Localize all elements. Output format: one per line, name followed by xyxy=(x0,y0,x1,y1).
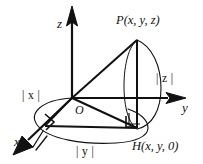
segment-xfoot-to-h xyxy=(45,126,137,128)
point-p-label: P(x, y, z) xyxy=(116,14,160,27)
abs-x-label: | x | xyxy=(22,90,40,102)
segment-origin-to-p xyxy=(72,40,137,98)
abs-z-label: | z | xyxy=(156,73,173,85)
vertical-ellipse-arc-back xyxy=(124,40,137,129)
point-h-label: H(x, y, 0) xyxy=(132,140,179,153)
coordinate-diagram: z y x P(x, y, z) H(x, y, 0) O | x | | y … xyxy=(0,0,203,164)
x-axis-label: x xyxy=(14,135,20,148)
z-axis-label: z xyxy=(57,17,62,30)
abs-y-label: | y | xyxy=(76,146,94,158)
origin-label: O xyxy=(75,104,84,116)
y-axis-label: y xyxy=(182,101,188,114)
